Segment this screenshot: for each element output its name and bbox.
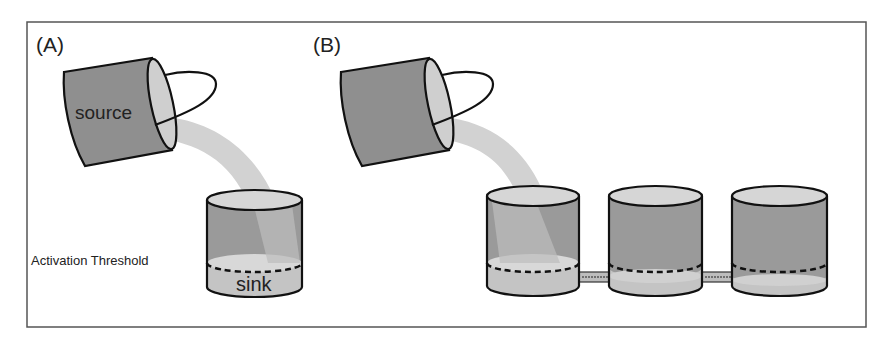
sink-label: sink <box>236 273 273 295</box>
panel-b: (B) <box>313 33 827 303</box>
activation-threshold-label: Activation Threshold <box>31 253 149 268</box>
diagram-canvas: (A) source sink Activation Threshold <box>0 0 893 338</box>
panel-a-label: (A) <box>36 33 64 56</box>
tank-3 <box>732 186 827 296</box>
source-bucket <box>341 57 493 166</box>
sink-tank: sink <box>207 190 302 303</box>
source-bucket: source <box>64 57 216 166</box>
tank-1 <box>487 186 579 303</box>
tank-2 <box>609 186 702 296</box>
source-label: source <box>75 102 132 123</box>
panel-a: (A) source sink Activation Threshold <box>31 33 302 303</box>
panel-b-label: (B) <box>313 33 341 56</box>
